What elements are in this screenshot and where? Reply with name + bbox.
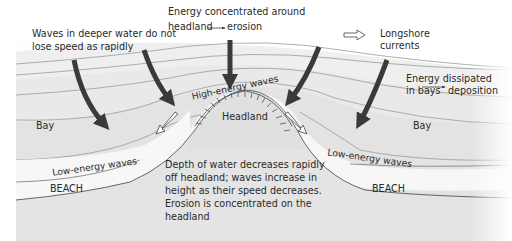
longshore-label: Longshore xyxy=(380,28,430,39)
beach-right-label: BEACH xyxy=(372,183,405,194)
bay-left-label: Bay xyxy=(36,120,54,131)
depth-description-1: Depth of water decreases rapidly xyxy=(165,159,325,170)
beach-left-label: BEACH xyxy=(50,183,83,194)
depth-description-4: Erosion is concentrated on the xyxy=(165,198,312,209)
energy-concentrated-label: Energy concentrated around xyxy=(168,6,305,17)
energy-concentrated-erosion: erosion xyxy=(227,21,262,32)
deep-water-label: Waves in deeper water do not xyxy=(32,28,176,39)
deep-water-label-2: lose speed as rapidly xyxy=(32,41,134,52)
energy-dissipated-bays: in bays xyxy=(406,85,440,96)
headland-label: Headland xyxy=(222,111,268,122)
longshore-label-2: currents xyxy=(380,40,420,51)
depth-description-2: off headland; waves increase in xyxy=(165,172,317,183)
depth-description-5: headland xyxy=(165,211,210,222)
energy-dissipated-label: Energy dissipated xyxy=(406,73,492,84)
depth-description-3: height as their speed decreases. xyxy=(165,185,322,196)
energy-dissipated-deposition: deposition xyxy=(448,85,498,96)
energy-concentrated-headland: headland xyxy=(168,21,213,32)
wave-refraction-diagram: Waves in deeper water do not lose speed … xyxy=(0,0,512,241)
bay-right-label: Bay xyxy=(413,120,431,131)
